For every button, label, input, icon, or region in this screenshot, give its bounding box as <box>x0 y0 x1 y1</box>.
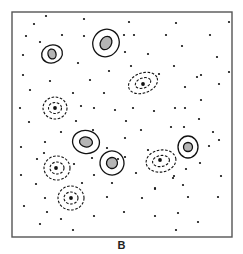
dot <box>28 121 30 123</box>
dot <box>170 126 172 128</box>
dot <box>22 54 24 56</box>
dot <box>212 131 214 133</box>
contour-center-dot <box>69 196 73 200</box>
dot <box>123 211 125 213</box>
dot <box>124 51 126 53</box>
dot <box>185 168 187 170</box>
dot <box>77 62 79 64</box>
dot <box>49 80 51 82</box>
dot <box>35 183 37 185</box>
dot <box>106 196 108 198</box>
dot <box>199 162 201 164</box>
dot <box>216 56 218 58</box>
dot <box>111 182 113 184</box>
dot <box>187 196 189 198</box>
dot <box>83 35 85 37</box>
dot <box>60 131 62 133</box>
dot <box>125 120 127 122</box>
dot <box>81 182 83 184</box>
dot <box>39 223 41 225</box>
dot <box>45 15 47 17</box>
dot <box>124 156 126 158</box>
dot <box>183 126 185 128</box>
dot <box>75 120 77 122</box>
dot <box>184 86 186 88</box>
dot <box>22 74 24 76</box>
dot <box>39 41 41 43</box>
dot <box>218 83 220 85</box>
dot <box>106 147 108 149</box>
dot <box>36 158 38 160</box>
dot <box>153 110 155 112</box>
dot <box>124 137 126 139</box>
dot <box>172 177 174 179</box>
dot <box>83 18 85 20</box>
contour-center-dot <box>141 82 145 86</box>
dot <box>198 118 200 120</box>
dot <box>154 187 156 189</box>
dot <box>175 22 177 24</box>
blob-3 <box>71 128 102 155</box>
dot <box>228 21 230 23</box>
dot <box>23 205 25 207</box>
dot <box>154 215 156 217</box>
dot <box>196 76 198 78</box>
contour-diagram <box>0 0 243 254</box>
dot <box>29 89 31 91</box>
contour-center-dot <box>53 106 57 110</box>
dot <box>182 184 184 186</box>
dot <box>60 218 62 220</box>
dashed-contours <box>43 68 178 210</box>
dot <box>147 53 149 55</box>
scatter-dots <box>19 15 230 231</box>
dot <box>173 65 175 67</box>
blob-1 <box>40 43 65 66</box>
dot <box>208 145 210 147</box>
dot <box>173 175 175 177</box>
dot <box>128 21 130 23</box>
dot <box>133 34 135 36</box>
contour-center-dot <box>158 158 162 162</box>
dot <box>158 73 160 75</box>
dot <box>44 141 46 143</box>
dot <box>46 211 48 213</box>
contour-center-dot <box>54 166 58 170</box>
dot <box>89 79 91 81</box>
dot <box>72 92 74 94</box>
blob-2 <box>88 24 125 61</box>
dot <box>44 197 46 199</box>
dot <box>25 35 27 37</box>
dot <box>218 139 220 141</box>
panel-label: B <box>0 239 243 251</box>
dot <box>217 196 219 198</box>
dot <box>228 71 230 73</box>
dot <box>114 109 116 111</box>
dot <box>200 99 202 101</box>
dot <box>123 34 125 36</box>
dot <box>93 174 95 176</box>
dot <box>184 107 186 109</box>
dot <box>72 229 74 231</box>
dot <box>220 175 222 177</box>
blob-4 <box>96 147 129 180</box>
dot <box>165 34 167 36</box>
dot <box>147 149 149 151</box>
dot <box>92 129 94 131</box>
dot <box>19 107 21 109</box>
dot <box>108 70 110 72</box>
dot <box>93 215 95 217</box>
dot <box>61 34 63 36</box>
dot <box>43 152 45 154</box>
dot <box>130 65 132 67</box>
dot <box>20 146 22 148</box>
dot <box>200 74 202 76</box>
dot <box>174 107 176 109</box>
dashed-contour-centers <box>53 82 162 200</box>
dot <box>103 92 105 94</box>
dot <box>135 172 137 174</box>
dot <box>140 129 142 131</box>
dot <box>132 107 134 109</box>
dot <box>93 107 95 109</box>
blob-5 <box>178 136 198 158</box>
dot <box>73 163 75 165</box>
